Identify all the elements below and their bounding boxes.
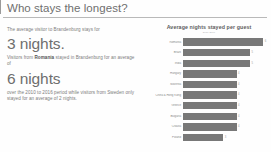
chart-bar-value-label: 6 bbox=[265, 40, 267, 43]
chart-bar-track: 4 bbox=[183, 90, 270, 101]
chart-category-label: Poland bbox=[142, 136, 183, 139]
chart-bar-row: China & Hong Kong4 bbox=[142, 90, 270, 101]
chart-bar-value-label: 5 bbox=[251, 62, 253, 65]
romania-lead-in: Visitors from Romania stayed in Brandenb… bbox=[7, 55, 135, 67]
chart-bar bbox=[183, 70, 237, 77]
chart-bar-value-label: 4 bbox=[238, 125, 240, 128]
chart-plot-area: Romania6Brazil5India5Hungary4Slovenia4Ch… bbox=[142, 37, 270, 149]
chart-bar-row: India5 bbox=[142, 58, 270, 69]
chart-bar-value-label: 3 bbox=[225, 136, 227, 139]
chart-category-label: Croatia bbox=[142, 125, 183, 128]
romania-highlight: Romania bbox=[34, 55, 54, 60]
chart-subtitle: 2010-2016 bbox=[148, 31, 270, 34]
chart-bar bbox=[183, 91, 237, 98]
chart-bar-track: 4 bbox=[183, 79, 270, 90]
chart-bar-track: 4 bbox=[183, 69, 270, 80]
chart-bar-row: Bulgaria4 bbox=[142, 111, 270, 122]
chart-bar-track: 4 bbox=[183, 101, 270, 112]
chart-bar bbox=[183, 113, 237, 120]
chart-bar-row: Brazil5 bbox=[142, 48, 270, 59]
chart-bar-value-label: 5 bbox=[251, 51, 253, 54]
chart-bar-value-label: 4 bbox=[238, 83, 240, 86]
chart-bar-value-label: 4 bbox=[238, 93, 240, 96]
chart-bar bbox=[183, 38, 263, 45]
chart-bar-row: Romania6 bbox=[142, 37, 270, 48]
chart-bar-row: Croatia4 bbox=[142, 122, 270, 133]
chart-bar-value-label: 4 bbox=[238, 115, 240, 118]
chart-category-label: Hungary bbox=[142, 72, 183, 75]
chart-bar bbox=[183, 123, 237, 130]
chart-bar-track: 6 bbox=[183, 37, 270, 48]
chart-bar bbox=[183, 81, 237, 88]
chart-category-label: Slovenia bbox=[142, 83, 183, 86]
page-title: Who stays the longest? bbox=[7, 2, 128, 14]
intro-text: The average visitor to Brandenburg stays… bbox=[7, 27, 135, 33]
outro-text: over the 2010 to 2016 period while visit… bbox=[7, 90, 135, 102]
stat-romania-nights: 6 nights bbox=[7, 70, 135, 87]
chart-bar bbox=[183, 134, 223, 141]
chart-category-label: China & Hong Kong bbox=[142, 94, 183, 97]
chart-bar-value-label: 4 bbox=[238, 72, 240, 75]
romania-lead-in-prefix: Visitors from bbox=[7, 55, 34, 60]
chart-bar bbox=[183, 49, 250, 56]
chart-category-label: Bulgaria bbox=[142, 115, 183, 118]
left-accent-rule bbox=[0, 0, 1, 14]
chart-bar bbox=[183, 102, 237, 109]
stat-average-nights: 3 nights. bbox=[7, 35, 135, 52]
chart-bar-track: 5 bbox=[183, 58, 270, 69]
chart-bar bbox=[183, 60, 250, 67]
chart-bar-value-label: 4 bbox=[238, 104, 240, 107]
chart-bar-row: Slovenia4 bbox=[142, 79, 270, 90]
chart-category-label: Romania bbox=[142, 41, 183, 44]
infographic-page: Who stays the longest? The average visit… bbox=[0, 0, 271, 152]
chart-category-label: Brazil bbox=[142, 51, 183, 54]
chart-bar-row: Hungary4 bbox=[142, 69, 270, 80]
chart-title: Average nights stayed per guest bbox=[148, 24, 270, 30]
chart-bar-row: Greece4 bbox=[142, 101, 270, 112]
chart-bar-track: 5 bbox=[183, 48, 270, 59]
chart-category-label: India bbox=[142, 62, 183, 65]
chart-bar-track: 3 bbox=[183, 132, 270, 143]
bar-chart: Average nights stayed per guest 2010-201… bbox=[142, 24, 270, 150]
chart-category-label: Greece bbox=[142, 104, 183, 107]
chart-bar-row: Poland3 bbox=[142, 132, 270, 143]
chart-bar-track: 4 bbox=[183, 122, 270, 133]
narrative-column: The average visitor to Brandenburg stays… bbox=[7, 27, 135, 104]
chart-bar-track: 4 bbox=[183, 111, 270, 122]
title-divider bbox=[3, 17, 267, 18]
